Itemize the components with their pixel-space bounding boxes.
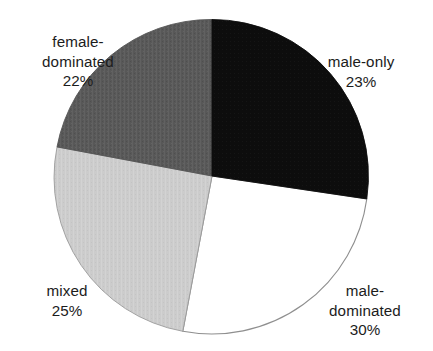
pie-label-male-only: male-only 23% [296, 33, 426, 111]
pie-label-male-dominated-percent: 30% [300, 320, 430, 339]
pie-label-male-only-name: male-only [328, 53, 395, 70]
pie-label-male-dominated: male- dominated 30% [300, 262, 430, 351]
pie-label-mixed: mixed 25% [12, 262, 122, 340]
pie-label-mixed-name: mixed [46, 282, 87, 299]
pie-label-female-dominated-percent: 22% [8, 71, 148, 90]
pie-label-female-dominated-name: female- dominated [42, 33, 114, 69]
pie-label-female-dominated: female- dominated 22% [8, 13, 148, 110]
pie-label-male-dominated-name: male- dominated [329, 282, 401, 318]
pie-label-mixed-percent: 25% [12, 301, 122, 320]
pie-label-male-only-percent: 23% [296, 72, 426, 91]
pie-chart-figure: female- dominated 22% male-only 23% mixe… [0, 0, 433, 351]
